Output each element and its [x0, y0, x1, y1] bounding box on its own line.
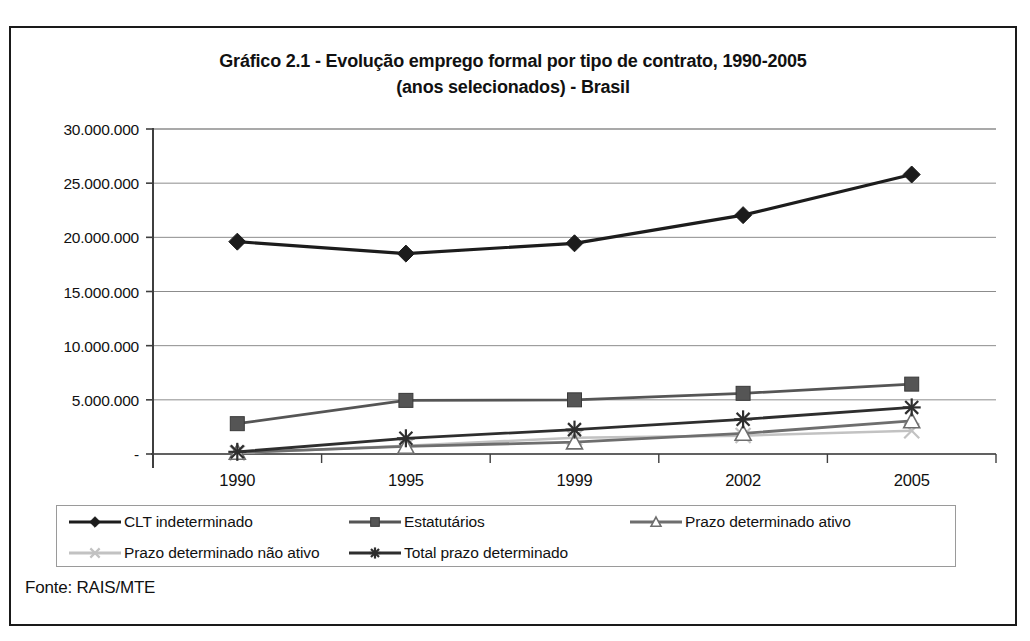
legend-item-clt-indeterminado[interactable]: CLT indeterminado: [69, 506, 253, 537]
x-axis-tick-marks: [153, 454, 996, 463]
series-clt-indeterminado: [229, 166, 920, 262]
legend-swatch-asterisk-icon: [349, 544, 401, 562]
x-tick-label: 1990: [219, 471, 255, 489]
marker-diamond-icon: [735, 207, 752, 224]
y-axis-tick-labels: -5.000.00010.000.00015.000.00020.000.000…: [63, 121, 139, 463]
legend-swatch-x-icon: [69, 544, 121, 562]
legend-label: CLT indeterminado: [124, 513, 253, 531]
legend-swatch-diamond-icon: [69, 513, 121, 531]
y-tick-label: 10.000.000: [63, 338, 139, 355]
marker-square-icon: [568, 393, 582, 407]
legend-row-2: Prazo determinado não ativo Total prazo …: [57, 537, 955, 568]
marker-diamond-icon: [229, 233, 246, 250]
legend-row-1: CLT indeterminado Estatutários Prazo det…: [57, 506, 955, 537]
legend-label: Estatutários: [404, 513, 485, 531]
legend-item-estatutarios[interactable]: Estatutários: [349, 506, 485, 537]
legend-label: Total prazo determinado: [404, 544, 568, 562]
marker-square-icon: [230, 417, 244, 431]
y-tick-label: 25.000.000: [63, 175, 139, 192]
marker-diamond-icon: [397, 245, 414, 262]
marker-diamond-icon: [903, 166, 920, 183]
marker-square-icon: [371, 517, 380, 526]
x-tick-label: 2002: [725, 471, 761, 489]
marker-asterisk-icon: [228, 443, 246, 461]
y-tick-label: 15.000.000: [63, 284, 139, 301]
data-series-layer: [228, 166, 920, 461]
figure-frame: Gráfico 2.1 - Evolução emprego formal po…: [9, 26, 1017, 626]
x-tick-label: 1999: [557, 471, 593, 489]
marker-square-icon: [736, 386, 750, 400]
marker-asterisk-icon: [566, 421, 584, 439]
y-tick-label: 30.000.000: [63, 121, 139, 138]
series-total-prazo-determinado: [228, 398, 920, 460]
marker-asterisk-icon: [369, 547, 380, 558]
marker-asterisk-icon: [903, 398, 921, 416]
legend-label: Prazo determinado não ativo: [124, 544, 319, 562]
legend-swatch-square-icon: [349, 513, 401, 531]
x-tick-label: 2005: [894, 471, 930, 489]
legend-item-prazo-determinado-nao-ativo[interactable]: Prazo determinado não ativo: [69, 537, 319, 568]
y-tick-label: -: [134, 446, 139, 463]
marker-asterisk-icon: [397, 429, 415, 447]
source-note: Fonte: RAIS/MTE: [25, 578, 155, 598]
y-tick-label: 20.000.000: [63, 229, 139, 246]
y-tick-label: 5.000.000: [72, 392, 140, 409]
marker-diamond-icon: [90, 516, 101, 527]
legend-swatch-triangle-icon: [630, 513, 682, 531]
marker-asterisk-icon: [734, 410, 752, 428]
marker-square-icon: [905, 377, 919, 391]
legend-item-prazo-determinado-ativo[interactable]: Prazo determinado ativo: [630, 506, 851, 537]
x-tick-label: 1995: [388, 471, 424, 489]
legend-item-total-prazo-determinado[interactable]: Total prazo determinado: [349, 537, 568, 568]
chart-legend: CLT indeterminado Estatutários Prazo det…: [56, 505, 956, 567]
legend-label: Prazo determinado ativo: [685, 513, 851, 531]
x-axis-tick-labels: 19901995199920022005: [219, 471, 929, 489]
marker-square-icon: [399, 393, 413, 407]
